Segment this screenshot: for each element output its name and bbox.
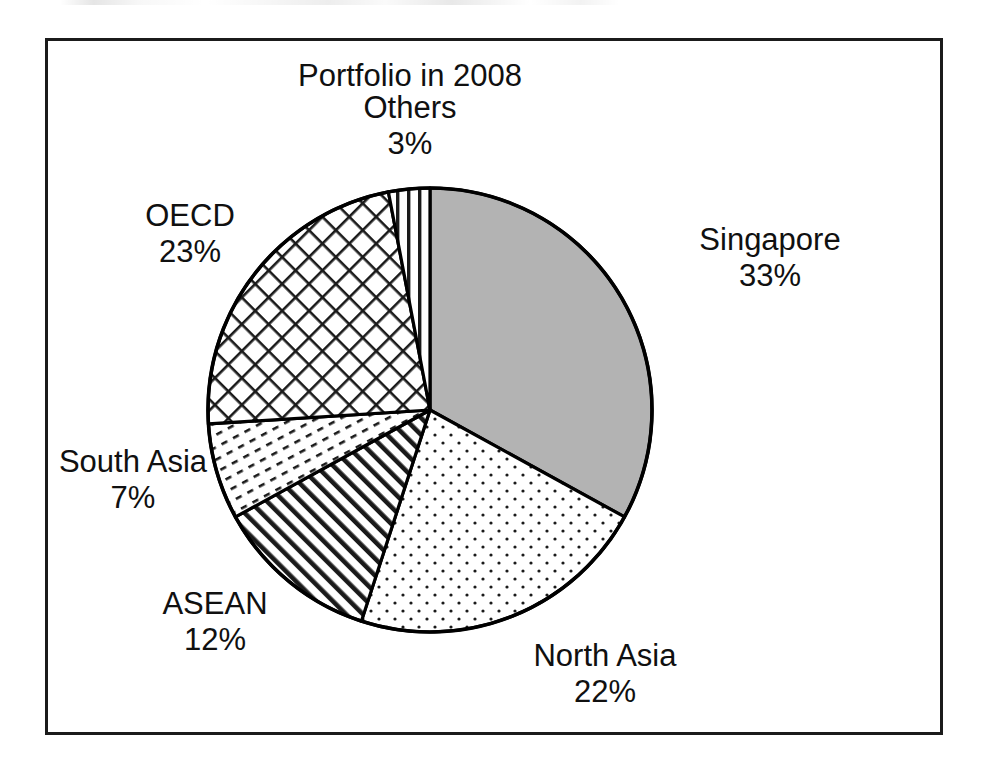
slice-label-north-asia-value: 22% (450, 674, 760, 710)
slice-label-others-name: Others (250, 90, 570, 126)
slice-label-singapore-name: Singapore (640, 222, 900, 258)
slice-label-others-value: 3% (250, 126, 570, 162)
slice-label-oecd: OECD 23% (70, 198, 310, 270)
slice-label-north-asia: North Asia 22% (450, 638, 760, 710)
slice-label-oecd-name: OECD (70, 198, 310, 234)
chart-title: Portfolio in 2008 (200, 58, 620, 94)
slice-label-south-asia: South Asia 7% (8, 444, 258, 516)
figure-root: Portfolio in 2008 Others 3% Singapore 33… (0, 0, 983, 772)
slice-label-asean-value: 12% (90, 622, 340, 658)
slice-label-south-asia-value: 7% (8, 480, 258, 516)
slice-label-oecd-value: 23% (70, 234, 310, 270)
slice-label-singapore-value: 33% (640, 258, 900, 294)
slice-label-singapore: Singapore 33% (640, 222, 900, 294)
slice-label-asean: ASEAN 12% (90, 586, 340, 658)
slice-label-north-asia-name: North Asia (450, 638, 760, 674)
slice-label-south-asia-name: South Asia (8, 444, 258, 480)
slice-label-others: Others 3% (250, 90, 570, 162)
slice-label-asean-name: ASEAN (90, 586, 340, 622)
